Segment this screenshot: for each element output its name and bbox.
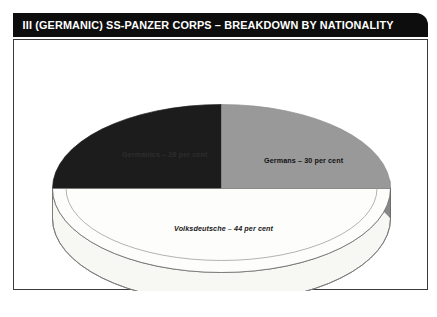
- slice-germans: [222, 105, 391, 189]
- slice-germanics: [53, 105, 222, 189]
- pie-chart-svg: [14, 40, 429, 291]
- chart-title-bar: III (GERMANIC) SS-PANZER CORPS – BREAKDO…: [13, 13, 428, 37]
- slice-label-germanics: Germanics – 26 per cent: [122, 150, 207, 159]
- slice-label-volksdeutsche: Volksdeutsche – 44 per cent: [174, 224, 273, 233]
- chart-frame: Germanics – 26 per cent Germans – 30 per…: [13, 39, 428, 290]
- figure-canvas: III (GERMANIC) SS-PANZER CORPS – BREAKDO…: [0, 0, 437, 317]
- pie-chart: Germanics – 26 per cent Germans – 30 per…: [14, 40, 429, 291]
- slice-label-germans: Germans – 30 per cent: [264, 156, 343, 165]
- page-title: III (GERMANIC) SS-PANZER CORPS – BREAKDO…: [13, 19, 394, 31]
